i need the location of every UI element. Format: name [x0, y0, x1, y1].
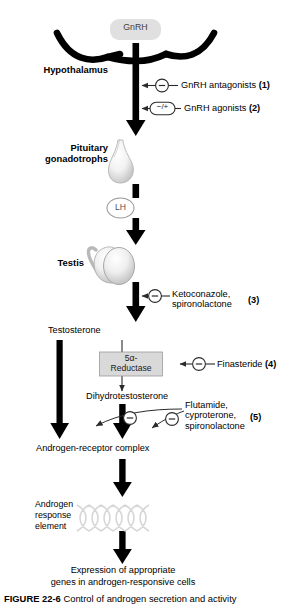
are-label-line3: element: [35, 522, 66, 532]
intervention-2-label: GnRH agonists (2): [184, 103, 260, 113]
gnrh-label: GnRH: [110, 23, 161, 33]
intervention-4-label: Finasteride (4): [217, 359, 276, 369]
are-label-line1: Androgen: [35, 500, 73, 510]
intervention-2-text: GnRH agonists: [184, 103, 246, 113]
figure-caption-label: FIGURE 22-6: [4, 594, 61, 604]
hypothalamus-label: Hypothalamus: [0, 65, 108, 76]
are-label-line2: response: [35, 511, 71, 521]
intervention-5-number: (5): [250, 412, 261, 422]
arrow-are-to-expression: [113, 531, 132, 564]
dht-label: Dihydrotestosterone: [86, 391, 168, 401]
intervention-5-text-line1: Flutamide,: [185, 400, 245, 410]
connector-intervention-1: [142, 79, 178, 92]
intervention-5-text-line3: spironolactone: [185, 421, 245, 431]
arrow-testosterone-to-arc: [50, 340, 69, 439]
arrow-pituitary-to-lh: [133, 184, 140, 198]
intervention-3-text-line1: Ketoconazole,: [172, 289, 232, 299]
intervention-5-text-line2: cyproterone,: [185, 410, 245, 420]
intervention-1-number: (1): [259, 80, 270, 90]
testis-label: Testis: [0, 258, 84, 269]
testosterone-label: Testosterone: [48, 325, 101, 335]
intervention-1-text: GnRH antagonists: [181, 80, 256, 90]
intervention-4-text: Finasteride: [217, 359, 262, 369]
reductase-label-line2: Reductase: [100, 364, 163, 374]
intervention-5-label: Flutamide, cyproterone, spironolactone: [185, 400, 245, 431]
connector-intervention-5: [96, 409, 184, 428]
dna-helix-illustration: [77, 505, 149, 531]
androgen-receptor-complex-label: Androgen-receptor complex: [36, 443, 149, 453]
expression-label-line2: genes in androgen-responsive cells: [8, 577, 238, 587]
pituitary-label-line2: gonadotrophs: [0, 154, 108, 165]
connector-intervention-4: [180, 358, 215, 371]
arrow-arc-to-are: [113, 459, 132, 497]
figure-diagram: GnRH Hypothalamus Pituitary gonadotrophs…: [0, 0, 286, 607]
expression-label-line1: Expression of appropriate: [23, 565, 223, 575]
intervention-3-number: (3): [248, 295, 259, 305]
connector-intervention-3: [142, 290, 170, 303]
intervention-2-number: (2): [249, 103, 260, 113]
arrow-lh-to-testis: [126, 218, 146, 245]
intervention-2-sign: −/+: [150, 103, 175, 112]
lh-label: LH: [107, 203, 134, 213]
figure-caption-text: Control of androgen secretion and activi…: [63, 594, 236, 604]
intervention-1-label: GnRH antagonists (1): [181, 80, 270, 90]
figure-caption: FIGURE 22-6 Control of androgen secretio…: [4, 594, 286, 605]
arrow-testis-to-testosterone: [126, 282, 146, 322]
testis-illustration: [88, 247, 134, 285]
intervention-3-text-line2: spironolactone: [172, 299, 232, 309]
pituitary-label-line1: Pituitary: [0, 143, 108, 154]
intervention-3-label: Ketoconazole, spironolactone: [172, 289, 232, 310]
intervention-4-number: (4): [265, 359, 276, 369]
pituitary-gland-illustration: [108, 139, 133, 183]
arrow-gnrh-to-pituitary: [126, 43, 146, 136]
